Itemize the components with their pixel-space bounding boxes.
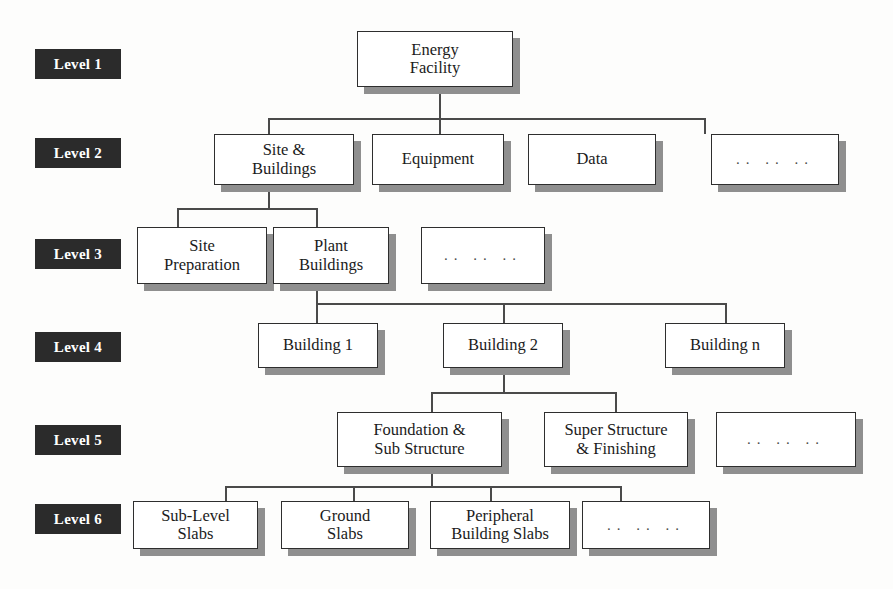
node-level5-more[interactable]: .. .. .. [716,412,856,467]
connector-l3-drop-siteprep [177,208,179,227]
node-label: Equipment [402,150,474,168]
connector-l2-drop-equipment [439,118,441,134]
node-level3-more[interactable]: .. .. .. [421,227,545,284]
node-label: Foundation & Sub Structure [373,421,465,458]
connector-l6-drop-peripheral [490,486,492,501]
connector-l3-bus [177,208,317,210]
diagram-canvas: Level 1 Level 2 Level 3 Level 4 Level 5 … [0,0,893,589]
level-badge-3-label: Level 3 [54,246,102,263]
node-label: Building n [690,336,760,354]
node-label: Sub-Level Slabs [161,507,230,544]
level-badge-6-label: Level 6 [54,511,102,528]
node-peripheral-building-slabs[interactable]: Peripheral Building Slabs [430,501,570,549]
node-label: .. .. .. [607,517,685,534]
connector-l5-bus [431,392,616,394]
connector-l4-bus [316,303,725,305]
node-label: Building 1 [283,336,353,354]
node-label: Plant Buildings [299,237,363,274]
node-level6-more[interactable]: .. .. .. [582,501,710,549]
node-building-n[interactable]: Building n [665,323,785,368]
node-label: Site & Buildings [252,141,316,178]
node-label: Building 2 [468,336,538,354]
connector-l4-drop-bn [725,303,727,323]
connector-l5-drop-foundation [431,392,433,412]
node-foundation-sub-structure[interactable]: Foundation & Sub Structure [337,412,502,467]
connector-l6-drop-more [620,486,622,501]
connector-l5-drop-superstructure [615,392,617,412]
node-label: Ground Slabs [320,507,370,544]
level-badge-6: Level 6 [36,505,120,533]
level-badge-1-label: Level 1 [54,56,102,73]
node-equipment[interactable]: Equipment [372,134,504,185]
level-badge-4-label: Level 4 [54,339,102,356]
connector-l6-drop-ground [353,486,355,501]
node-energy-facility[interactable]: Energy Facility [357,31,513,87]
node-label: Energy Facility [410,41,460,78]
level-badge-5: Level 5 [36,426,120,454]
level-badge-4: Level 4 [36,333,120,361]
node-label: Peripheral Building Slabs [451,507,549,544]
connector-l1-stem [439,94,441,118]
node-data[interactable]: Data [528,134,656,185]
connector-l4-drop-b2 [503,303,505,323]
node-building-2[interactable]: Building 2 [443,323,563,368]
node-label: Super Structure & Finishing [564,421,667,458]
node-label: Data [576,150,607,168]
node-plant-buildings[interactable]: Plant Buildings [273,227,389,284]
node-level2-more[interactable]: .. .. .. [711,134,839,185]
level-badge-2-label: Level 2 [54,145,102,162]
node-label: Site Preparation [164,237,240,274]
level-badge-2: Level 2 [36,139,120,167]
connector-l3-drop-plantbuildings [316,208,318,227]
connector-l2-drop-site [268,118,270,134]
level-badge-1: Level 1 [36,50,120,78]
connector-l4-drop-b1 [316,303,318,323]
level-badge-3: Level 3 [36,240,120,268]
node-site-preparation[interactable]: Site Preparation [137,227,267,284]
node-label: .. .. .. [747,431,825,448]
connector-l6-bus [225,486,621,488]
connector-l2-bus [268,118,705,120]
node-label: .. .. .. [444,247,522,264]
connector-l2-drop-data [704,118,706,134]
node-ground-slabs[interactable]: Ground Slabs [281,501,409,549]
node-sub-level-slabs[interactable]: Sub-Level Slabs [133,501,258,549]
connector-l6-drop-sublevel [225,486,227,501]
node-site-and-buildings[interactable]: Site & Buildings [214,134,354,185]
level-badge-5-label: Level 5 [54,432,102,449]
node-building-1[interactable]: Building 1 [258,323,378,368]
node-label: .. .. .. [736,151,814,168]
node-super-structure-finishing[interactable]: Super Structure & Finishing [544,412,688,467]
